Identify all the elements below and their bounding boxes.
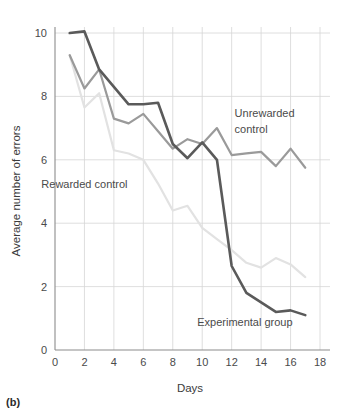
y-tick-label: 10 xyxy=(35,27,47,39)
x-tick-label: 6 xyxy=(140,356,146,368)
x-tick-label: 2 xyxy=(81,356,87,368)
y-tick-label: 6 xyxy=(41,154,47,166)
series-label-unrewarded-control-line2: control xyxy=(235,123,268,135)
series-line-experimental-group xyxy=(70,31,306,315)
data-series xyxy=(70,31,306,315)
x-tick-label: 14 xyxy=(255,356,267,368)
x-tick-label: 0 xyxy=(52,356,58,368)
x-tick-label: 12 xyxy=(226,356,238,368)
figure-panel-b: 0246810121416180246810 Experimental grou… xyxy=(0,0,343,418)
series-annotations: Experimental groupUnrewardedcontrolRewar… xyxy=(41,107,294,328)
series-label-rewarded-control: Rewarded control xyxy=(41,178,127,190)
x-tick-label: 18 xyxy=(314,356,326,368)
y-axis-title: Average number of errors xyxy=(10,125,22,256)
series-label-experimental-group: Experimental group xyxy=(197,316,292,328)
series-label-unrewarded-control: Unrewarded xyxy=(235,107,295,119)
y-tick-label: 4 xyxy=(41,217,47,229)
y-tick-label: 8 xyxy=(41,90,47,102)
x-tick-label: 10 xyxy=(196,356,208,368)
x-tick-label: 16 xyxy=(284,356,296,368)
x-tick-label: 8 xyxy=(170,356,176,368)
y-tick-label: 2 xyxy=(41,281,47,293)
line-chart: 0246810121416180246810 Experimental grou… xyxy=(0,0,343,418)
x-axis-title: Days xyxy=(177,382,203,394)
panel-label: (b) xyxy=(6,396,20,408)
y-tick-label: 0 xyxy=(41,344,47,356)
x-tick-label: 4 xyxy=(111,356,117,368)
